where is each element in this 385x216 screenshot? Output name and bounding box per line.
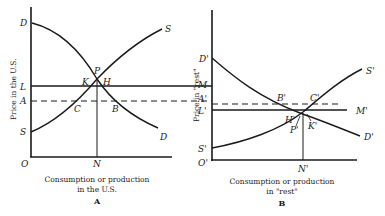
label-origin-o-prime: O' [198,158,208,168]
label-a: A [19,96,27,106]
panel-b: D' S' M A' B' C' L' M' H' P' K' D' S' O'… [192,10,375,208]
label-s-end: S [165,24,171,34]
panel-b-label: B [279,198,286,208]
label-k-prime: K' [307,121,317,131]
label-origin-o: O [21,159,29,169]
label-s-prime-start: S' [198,144,207,154]
label-m-prime: M' [355,106,368,116]
panel-a-y-axis-title: Price in the U.S. [9,58,18,120]
panel-b-supply-curve [212,69,362,148]
label-d-prime-end: D' [363,132,374,142]
label-d-prime-start: D' [198,54,209,64]
label-h-prime: H' [284,115,295,125]
label-p-prime: P' [289,125,299,135]
panel-a-x-axis-title-line1: Consumption or production [45,175,150,184]
label-k: K [81,77,90,87]
panel-b-k-prime-pointer [307,114,311,121]
label-c-prime: C' [310,93,319,103]
label-c: C [74,104,81,114]
label-n: N [92,159,102,169]
panel-b-x-axis-title-line1: Consumption or production [230,177,335,186]
label-b-prime: B' [276,93,286,103]
label-d-end: D [159,132,167,142]
panel-b-x-axis-title-line2: in "rest" [266,187,297,196]
label-h: H [102,77,111,87]
label-p: P [93,66,101,76]
label-l: L [19,82,26,92]
panel-a-label: A [93,196,101,206]
trade-equilibrium-diagram: D S P K H L A C B S D O N Price in the U… [0,0,385,216]
panel-a: D S P K H L A C B S D O N Price in the U… [9,7,212,206]
label-s-prime-end: S' [366,66,375,76]
panel-a-x-axis-title-line2: in the U.S. [77,185,117,194]
label-n-prime: N' [297,164,308,174]
panel-b-y-axis-title: Price in "rest" [192,69,201,122]
label-d-start: D [19,18,27,28]
label-s-start: S [20,127,26,137]
label-b: B [111,104,119,114]
